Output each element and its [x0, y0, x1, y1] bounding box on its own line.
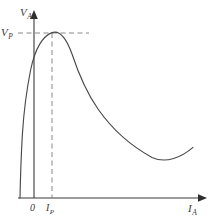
origin-tick-label: 0: [30, 203, 35, 213]
plot-canvas: [0, 0, 214, 221]
y-axis-label-subscript: A: [27, 12, 32, 21]
ip-tick-label: IP: [46, 203, 54, 213]
vp-tick-label: VP: [1, 27, 12, 38]
vp-tick-label-subscript: P: [8, 32, 13, 41]
ip-tick-label-symbol: I: [46, 202, 49, 213]
y-axis-label-symbol: V: [20, 6, 27, 18]
x-axis-label: IA: [188, 203, 196, 214]
vi-characteristic-figure: VA IA VP 0 IP: [0, 0, 214, 221]
ip-tick-label-subscript: P: [50, 208, 54, 216]
x-axis-label-subscript: A: [192, 208, 197, 217]
x-axis-arrow-icon: [198, 194, 207, 202]
characteristic-curve: [20, 32, 193, 198]
vp-tick-label-symbol: V: [1, 26, 8, 38]
y-axis-label: VA: [20, 7, 31, 18]
